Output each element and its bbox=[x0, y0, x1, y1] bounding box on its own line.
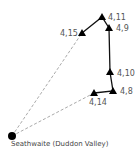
dashed-path bbox=[12, 93, 94, 136]
triangle-marker-icon bbox=[109, 87, 117, 94]
dashed-path bbox=[12, 33, 82, 136]
summit-label: 4,9 bbox=[116, 24, 129, 33]
summit-label: 4,11 bbox=[108, 13, 126, 22]
summit-4-11: 4,11 bbox=[98, 13, 126, 22]
summit-4-8: 4,8 bbox=[109, 87, 133, 96]
summit-label: 4,8 bbox=[120, 87, 133, 96]
start-point: Seathwaite (Duddon Valley) bbox=[8, 132, 109, 148]
start-label: Seathwaite (Duddon Valley) bbox=[11, 140, 109, 148]
triangle-marker-icon bbox=[105, 24, 113, 31]
summit-label: 4,14 bbox=[89, 98, 107, 107]
route-map: 4,154,114,94,104,84,14 Seathwaite (Duddo… bbox=[0, 0, 140, 154]
triangle-marker-icon bbox=[106, 68, 114, 75]
summit-4-15: 4,15 bbox=[60, 29, 86, 38]
summit-label: 4,15 bbox=[60, 29, 78, 38]
approach-paths bbox=[12, 33, 94, 136]
start-marker-icon bbox=[8, 132, 16, 140]
triangle-marker-icon bbox=[98, 13, 106, 20]
summit-label: 4,10 bbox=[117, 69, 135, 78]
